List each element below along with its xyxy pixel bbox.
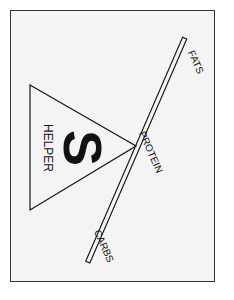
fulcrum-label: HELPER (41, 124, 55, 172)
beam-label-bottom: CARBS (92, 228, 116, 264)
s-letter: S (53, 130, 113, 166)
balance-diagram: S HELPER FATS PROTEIN CARBS (0, 0, 234, 300)
beam-label-middle: PROTEIN (137, 129, 165, 174)
beam-label-top: FATS (186, 49, 206, 76)
